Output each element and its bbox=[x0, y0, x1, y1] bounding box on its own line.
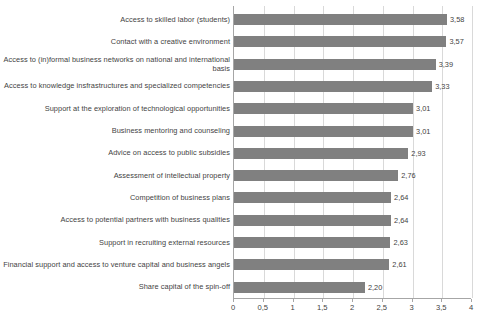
category-label: Share capital of the spin-off bbox=[2, 282, 230, 292]
bar bbox=[234, 14, 447, 25]
x-tick-mark bbox=[352, 299, 353, 302]
bar bbox=[234, 170, 398, 181]
bar-value-label: 3,58 bbox=[450, 14, 464, 25]
bar bbox=[234, 81, 432, 92]
bar bbox=[234, 192, 391, 203]
x-tick-label: 1 bbox=[281, 303, 305, 313]
bar-value-label: 2,76 bbox=[401, 170, 415, 181]
bar-value-label: 2,64 bbox=[394, 192, 408, 203]
bar bbox=[234, 215, 391, 226]
category-label: Contact with a creative environment bbox=[2, 37, 230, 47]
gridline bbox=[442, 6, 443, 298]
category-label: Business mentoring and counseling bbox=[2, 126, 230, 136]
bar bbox=[234, 103, 413, 114]
category-label: Access to (in)formal business networks o… bbox=[2, 55, 230, 74]
bar-value-label: 3,01 bbox=[416, 126, 430, 137]
bar bbox=[234, 259, 389, 270]
category-label: Competition of business plans bbox=[2, 193, 230, 203]
x-tick-mark bbox=[263, 299, 264, 302]
x-tick-label: 2 bbox=[340, 303, 364, 313]
bar-value-label: 3,39 bbox=[439, 59, 453, 70]
bar-value-label: 2,64 bbox=[394, 215, 408, 226]
category-label: Access to potential partners with busine… bbox=[2, 215, 230, 225]
x-tick-label: 1,5 bbox=[310, 303, 334, 313]
x-tick-mark bbox=[441, 299, 442, 302]
bar bbox=[234, 36, 446, 47]
x-tick-mark bbox=[322, 299, 323, 302]
bar bbox=[234, 126, 413, 137]
x-tick-mark bbox=[233, 299, 234, 302]
category-label: Assessment of intellectual property bbox=[2, 171, 230, 181]
category-label: Access to skilled labor (students) bbox=[2, 15, 230, 25]
x-tick-label: 0 bbox=[221, 303, 245, 313]
bar bbox=[234, 148, 408, 159]
x-tick-mark bbox=[471, 299, 472, 302]
x-tick-mark bbox=[412, 299, 413, 302]
category-label: Advice on access to public subsidies bbox=[2, 148, 230, 158]
x-tick-mark bbox=[293, 299, 294, 302]
category-label: Support at the exploration of technologi… bbox=[2, 104, 230, 114]
x-tick-label: 3,5 bbox=[429, 303, 453, 313]
bar bbox=[234, 237, 390, 248]
plot-area: 3,583,573,393,333,013,012,932,762,642,64… bbox=[233, 6, 472, 298]
bar bbox=[234, 59, 436, 70]
category-label: Access to knowledge insfrastructures and… bbox=[2, 81, 230, 91]
bar-value-label: 2,61 bbox=[392, 259, 406, 270]
bar-value-label: 2,93 bbox=[411, 148, 425, 159]
x-tick-label: 3 bbox=[400, 303, 424, 313]
bar-chart: Access to skilled labor (students)Contac… bbox=[0, 0, 479, 328]
category-axis: Access to skilled labor (students)Contac… bbox=[0, 0, 230, 328]
bar-value-label: 2,20 bbox=[368, 282, 382, 293]
category-label: Support in recruiting external resources bbox=[2, 238, 230, 248]
bar bbox=[234, 282, 365, 293]
bar-value-label: 3,01 bbox=[416, 103, 430, 114]
bar-value-label: 3,33 bbox=[435, 81, 449, 92]
category-label: Financial support and access to venture … bbox=[2, 260, 230, 270]
bar-value-label: 3,57 bbox=[449, 36, 463, 47]
bar-value-label: 2,63 bbox=[393, 237, 407, 248]
x-tick-label: 2,5 bbox=[370, 303, 394, 313]
x-tick-mark bbox=[382, 299, 383, 302]
x-tick-label: 4 bbox=[459, 303, 479, 313]
x-tick-label: 0,5 bbox=[251, 303, 275, 313]
gridline bbox=[472, 6, 473, 298]
